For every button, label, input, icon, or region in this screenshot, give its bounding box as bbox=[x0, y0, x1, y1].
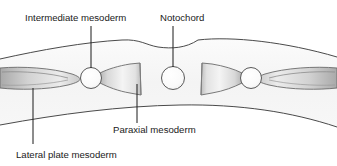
paraxial-mesoderm-label: Paraxial mesoderm bbox=[113, 124, 196, 135]
notochord-label: Notochord bbox=[160, 12, 204, 23]
lateral-plate-mesoderm-label: Lateral plate mesoderm bbox=[16, 149, 117, 160]
intermediate-mesoderm-left-circle bbox=[81, 68, 102, 89]
mesoderm-diagram: Intermediate mesoderm Notochord Paraxial… bbox=[0, 0, 337, 166]
diagram-canvas: Intermediate mesoderm Notochord Paraxial… bbox=[0, 0, 337, 166]
intermediate-mesoderm-right-circle bbox=[241, 68, 262, 89]
notochord-circle bbox=[162, 67, 185, 90]
intermediate-mesoderm-label: Intermediate mesoderm bbox=[25, 12, 126, 23]
